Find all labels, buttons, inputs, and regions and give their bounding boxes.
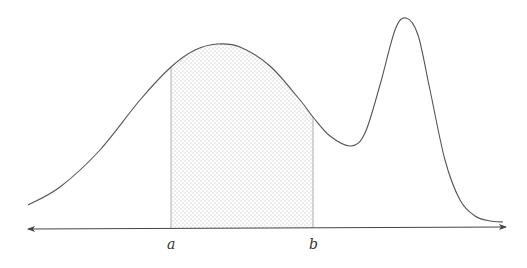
shaded-area-a-to-b — [171, 44, 313, 229]
label-a: a — [167, 236, 175, 252]
density-diagram — [0, 0, 527, 268]
label-b: b — [309, 236, 318, 252]
